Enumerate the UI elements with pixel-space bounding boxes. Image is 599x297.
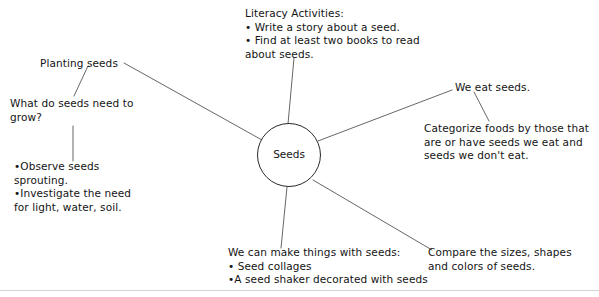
node-compare-seeds: Compare the sizes, shapes and colors of … <box>428 246 593 273</box>
node-planting-seeds: Planting seeds <box>40 57 160 71</box>
connector-planting-to-need <box>74 66 88 96</box>
node-literacy-activities: Literacy Activities: • Write a story abo… <box>245 7 425 61</box>
node-make-things: We can make things with seeds: • Seed co… <box>228 246 433 287</box>
concept-map-canvas: Seeds Planting seeds What do seeds need … <box>0 0 599 297</box>
center-node-label: Seeds <box>258 148 320 160</box>
connector-literacy-to-center <box>288 58 294 124</box>
connector-center-to-compare <box>313 180 432 250</box>
connector-center-to-make <box>281 187 287 248</box>
node-categorize-foods: Categorize foods by those that are or ha… <box>424 122 594 163</box>
connector-weeat-to-categorize <box>474 92 489 121</box>
node-what-do-seeds-need: What do seeds need to grow? <box>10 97 150 124</box>
node-we-eat-seeds: We eat seeds. <box>455 81 575 95</box>
node-observe-seeds: •Observe seeds sprouting. •Investigate t… <box>14 160 144 214</box>
